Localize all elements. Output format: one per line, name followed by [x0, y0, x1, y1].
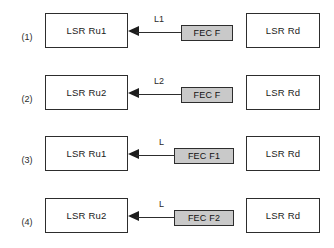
fec-label: FEC F1: [188, 151, 220, 161]
left-node-label: LSR Ru2: [67, 210, 107, 221]
arrow-left-icon: [128, 26, 139, 36]
fec-box: FEC F1: [174, 148, 234, 164]
row-index-label: (3): [14, 155, 40, 165]
left-node-label: LSR Ru1: [67, 25, 107, 36]
fec-box: FEC F: [181, 87, 233, 103]
right-node-box: LSR Rd: [246, 13, 320, 48]
link-arrow-group: L2 FEC F: [128, 75, 246, 110]
link-label: L: [159, 137, 164, 147]
fec-label: FEC F2: [188, 213, 220, 223]
right-node-label: LSR Rd: [266, 25, 300, 36]
diagram-row: (2) LSR Ru2 L2 FEC F LSR Rd: [0, 70, 334, 132]
fec-label: FEC F: [194, 90, 221, 100]
fec-box: FEC F2: [174, 210, 234, 226]
right-node-label: LSR Rd: [266, 148, 300, 159]
fec-box: FEC F: [181, 25, 233, 41]
link-arrow-group: L FEC F1: [128, 136, 246, 171]
arrow-left-icon: [128, 88, 139, 98]
link-line: [136, 155, 177, 156]
left-node-label: LSR Ru1: [67, 148, 107, 159]
left-node-box: LSR Ru1: [45, 136, 128, 171]
arrow-left-icon: [128, 149, 139, 159]
row-index-label: (1): [14, 32, 40, 42]
link-arrow-group: L FEC F2: [128, 198, 246, 233]
right-node-box: LSR Rd: [246, 136, 320, 171]
diagram-row: (4) LSR Ru2 L FEC F2 LSR Rd: [0, 193, 334, 248]
diagram-row: (1) LSR Ru1 L1 FEC F LSR Rd: [0, 8, 334, 70]
left-node-box: LSR Ru2: [45, 198, 128, 233]
link-label: L1: [154, 14, 164, 24]
diagram-row: (3) LSR Ru1 L FEC F1 LSR Rd: [0, 131, 334, 193]
diagram-canvas: (1) LSR Ru1 L1 FEC F LSR Rd (2) LSR Ru2 …: [0, 0, 334, 248]
link-line: [136, 94, 184, 95]
right-node-box: LSR Rd: [246, 75, 320, 110]
link-arrow-group: L1 FEC F: [128, 13, 246, 48]
link-label: L: [159, 199, 164, 209]
link-line: [136, 217, 177, 218]
arrow-left-icon: [128, 211, 139, 221]
row-index-label: (4): [14, 217, 40, 227]
left-node-label: LSR Ru2: [67, 87, 107, 98]
left-node-box: LSR Ru2: [45, 75, 128, 110]
link-line: [136, 32, 184, 33]
right-node-label: LSR Rd: [266, 87, 300, 98]
row-index-label: (2): [14, 94, 40, 104]
right-node-box: LSR Rd: [246, 198, 320, 233]
right-node-label: LSR Rd: [266, 210, 300, 221]
fec-label: FEC F: [194, 28, 221, 38]
link-label: L2: [154, 76, 164, 86]
left-node-box: LSR Ru1: [45, 13, 128, 48]
